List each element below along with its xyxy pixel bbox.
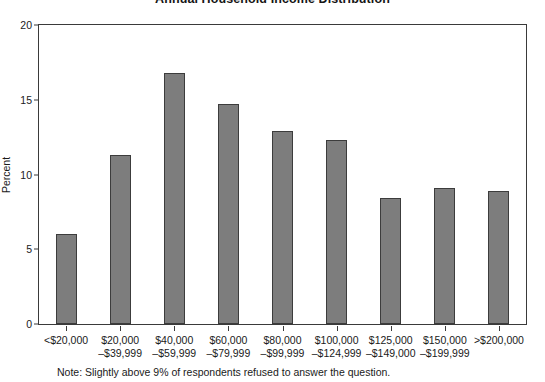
y-axis-tick-label: 0 <box>12 318 32 330</box>
bar <box>488 191 509 324</box>
y-axis-tick-label: 5 <box>12 243 32 255</box>
y-axis-tick-mark <box>34 249 39 250</box>
bar <box>218 104 239 324</box>
x-axis-tick-mark <box>283 326 284 331</box>
bar <box>56 234 77 324</box>
x-axis-tick-mark <box>66 326 67 331</box>
y-axis-tick-label: 20 <box>12 19 32 31</box>
x-axis-tick-label-line1: >$200,000 <box>474 334 524 346</box>
plot-inner: 05101520<$20,000$20,000–$39,999$40,000–$… <box>39 25 526 324</box>
bar <box>380 198 401 324</box>
x-axis-tick-mark <box>445 326 446 331</box>
y-axis-tick-mark <box>34 324 39 325</box>
chart-footnote: Note: Slightly above 9% of respondents r… <box>57 366 390 378</box>
x-axis-tick-mark <box>120 326 121 331</box>
x-axis-tick-mark <box>174 326 175 331</box>
x-axis-tick-mark <box>499 326 500 331</box>
x-axis-tick-mark <box>337 326 338 331</box>
y-axis-tick-mark <box>34 99 39 100</box>
chart-figure: Annual Household Income Distribution 051… <box>0 0 545 382</box>
y-axis-tick-mark <box>34 25 39 26</box>
plot-area: 05101520<$20,000$20,000–$39,999$40,000–$… <box>38 24 527 325</box>
y-axis-label: Percent <box>0 156 12 192</box>
bar <box>164 73 185 324</box>
bar <box>272 131 293 324</box>
y-axis-tick-label: 10 <box>12 169 32 181</box>
x-axis-tick-label: >$200,000 <box>456 334 542 347</box>
bar <box>110 155 131 324</box>
x-axis-tick-label-line2: –$199,999 <box>402 347 488 360</box>
chart-title: Annual Household Income Distribution <box>0 0 545 6</box>
bar <box>326 140 347 324</box>
x-axis-tick-mark <box>391 326 392 331</box>
bar <box>434 188 455 324</box>
y-axis-tick-label: 15 <box>12 94 32 106</box>
y-axis-tick-mark <box>34 174 39 175</box>
x-axis-tick-mark <box>228 326 229 331</box>
